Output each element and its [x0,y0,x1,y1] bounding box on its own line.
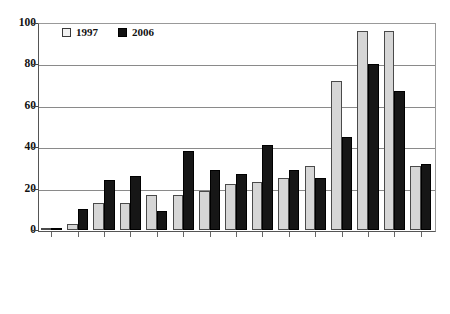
bar-group [38,23,64,230]
x-tick-mark [51,232,52,237]
bar-myanmar-1997 [41,228,52,230]
bar-group [223,23,249,230]
bar-brunei-1997 [146,195,157,230]
legend-label: 1997 [76,27,98,38]
y-tick-mark [31,189,38,190]
dark-square-icon [118,28,127,37]
bar-singapore-2006 [368,64,379,230]
x-tick-mark [262,232,263,237]
legend-entry-1997: 1997 [62,27,98,38]
y-tick-mark [31,23,38,24]
x-tick-mark [394,232,395,237]
y-tick-mark [31,147,38,148]
bar-thailand-1997 [278,178,289,230]
bar-laos-2006 [342,137,353,230]
bar-philippines-1997 [199,191,210,230]
bar-group [302,23,328,230]
legend-entry-2006: 2006 [118,27,154,38]
bar-china-2006 [104,180,115,230]
bar-group [196,23,222,230]
bar-cambodia-1997 [384,31,395,230]
y-tick-mark [31,230,38,231]
bar-korea-1997 [173,195,184,230]
x-tick-mark [78,232,79,237]
x-tick-mark [157,232,158,237]
bar-group [249,23,275,230]
bar-indonesia-2006 [236,174,247,230]
bar-japan-1997 [67,224,78,230]
bar-group [170,23,196,230]
y-tick-mark [31,106,38,107]
bar-brunei-2006 [157,211,168,230]
x-tick-mark [210,232,211,237]
bar-china-1997 [93,203,104,230]
bar-myanmar-2006 [51,228,62,230]
x-axis-labels: MYANMARJAPANCHINAINDIABRUNEIKOREAPHILIPP… [38,232,434,314]
x-tick-mark [183,232,184,237]
x-tick-mark [368,232,369,237]
bar-cambodia-2006 [394,91,405,230]
bar-group [276,23,302,230]
bar-laos-1997 [331,81,342,230]
bar-group [144,23,170,230]
bar-average-1997 [410,166,421,230]
bar-group [64,23,90,230]
x-tick-mark [421,232,422,237]
bar-korea-2006 [183,151,194,230]
chart-legend: 19972006 [62,27,154,38]
bar-group [91,23,117,230]
y-tick-mark [31,64,38,65]
bar-thailand-2006 [289,170,300,230]
bar-india-1997 [120,203,131,230]
bar-group [117,23,143,230]
bar-philippines-2006 [210,170,221,230]
bar-group [355,23,381,230]
x-tick-mark [342,232,343,237]
bar-group [381,23,407,230]
bar-japan-2006 [78,209,89,230]
bar-average-2006 [421,164,432,230]
x-tick-mark [315,232,316,237]
bar-group [408,23,434,230]
bars-layer [38,23,434,230]
legend-label: 2006 [132,27,154,38]
x-tick-mark [289,232,290,237]
light-square-icon [62,28,71,37]
bar-malaysia-1997 [252,182,263,230]
x-tick-mark [104,232,105,237]
y-axis: 020406080100 [0,0,36,314]
bar-group [328,23,354,230]
bar-chart: 020406080100 MYANMARJAPANCHINAINDIABRUNE… [0,0,450,314]
bar-singapore-1997 [357,31,368,230]
x-tick-mark [130,232,131,237]
bar-india-2006 [130,176,141,230]
x-tick-mark [236,232,237,237]
bar-hongkong-2006 [315,178,326,230]
bar-hongkong-1997 [305,166,316,230]
bar-indonesia-1997 [225,184,236,230]
bar-malaysia-2006 [262,145,273,230]
